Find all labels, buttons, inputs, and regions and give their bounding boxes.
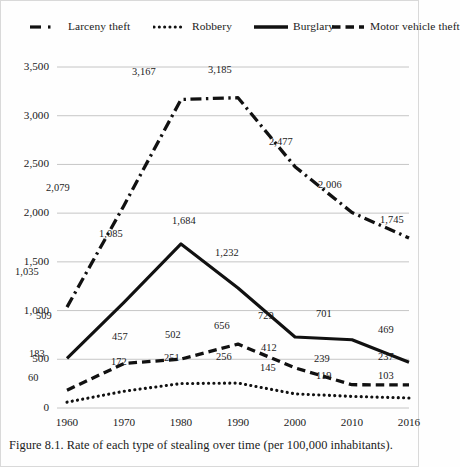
x-tick-label: 2010 <box>324 417 380 428</box>
chart-legend: Larceny theft Robbery Burglary <box>1 17 420 39</box>
data-point-label: 1,035 <box>15 267 39 277</box>
data-point-label: 183 <box>29 349 45 359</box>
data-point-label: 60 <box>28 373 39 383</box>
data-point-label: 239 <box>314 354 330 364</box>
legend-item-motor-vehicle-theft: Motor vehicle theft <box>331 17 460 37</box>
legend-swatch-solid-icon <box>254 22 288 32</box>
legend-label-robbery: Robbery <box>192 21 232 32</box>
data-point-label: 469 <box>378 325 394 335</box>
legend-label-burglary: Burglary <box>293 21 334 32</box>
series-line-larceny-theft <box>67 98 409 307</box>
data-point-label: 251 <box>164 353 180 363</box>
x-tick-label: 1970 <box>96 417 152 428</box>
y-tick-label: 2,000 <box>1 207 49 218</box>
data-point-label: 509 <box>36 311 52 321</box>
y-tick-label: 2,500 <box>1 158 49 169</box>
data-point-label: 2,477 <box>269 137 293 147</box>
x-tick-label: 1960 <box>39 417 95 428</box>
data-point-label: 172 <box>111 357 127 367</box>
y-tick-label: 3,500 <box>1 61 49 72</box>
data-point-label: 502 <box>165 330 181 340</box>
legend-item-larceny-theft: Larceny theft <box>29 17 130 37</box>
data-point-label: 3,185 <box>208 65 232 75</box>
data-point-label: 1,232 <box>215 248 239 258</box>
y-tick-label: 0 <box>1 402 49 413</box>
legend-swatch-dashed-icon <box>331 22 365 32</box>
figure-caption: Figure 8.1. Rate of each type of stealin… <box>9 437 413 453</box>
legend-label-motor-vehicle-theft: Motor vehicle theft <box>370 21 460 32</box>
x-tick-label: 1990 <box>210 417 266 428</box>
data-point-label: 1,745 <box>380 215 404 225</box>
chart-plot-area: 05001,0001,5002,0002,5003,0003,500 19601… <box>1 49 420 421</box>
data-point-label: 2,006 <box>318 180 342 190</box>
data-point-label: 119 <box>316 371 332 381</box>
data-point-label: 457 <box>112 332 128 342</box>
data-point-label: 3,167 <box>132 67 156 77</box>
data-point-label: 1,085 <box>99 229 123 239</box>
legend-item-burglary: Burglary <box>254 17 334 37</box>
data-point-label: 656 <box>214 321 230 331</box>
data-point-label: 237 <box>378 352 394 362</box>
y-tick-label: 3,000 <box>1 110 49 121</box>
data-point-label: 256 <box>216 352 232 362</box>
data-point-label: 701 <box>316 309 332 319</box>
data-point-label: 729 <box>258 311 274 321</box>
legend-swatch-dotted-icon <box>153 22 187 32</box>
data-point-label: 412 <box>261 343 277 353</box>
legend-label-larceny-theft: Larceny theft <box>68 21 130 32</box>
data-point-label: 103 <box>378 371 394 381</box>
x-tick-label: 2000 <box>267 417 323 428</box>
legend-swatch-dash-dot-icon <box>29 22 63 32</box>
data-point-label: 145 <box>260 363 276 373</box>
x-tick-label: 1980 <box>153 417 209 428</box>
data-point-label: 1,684 <box>172 216 196 226</box>
series-line-robbery <box>67 383 409 402</box>
chart-svg <box>1 49 420 421</box>
x-tick-label: 2016 <box>381 417 437 428</box>
data-point-label: 2,079 <box>46 183 70 193</box>
legend-item-robbery: Robbery <box>153 17 232 37</box>
